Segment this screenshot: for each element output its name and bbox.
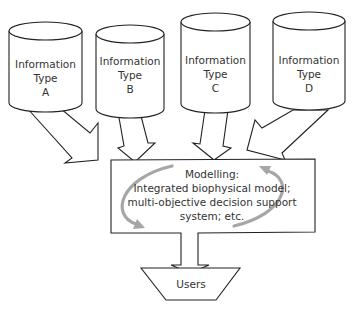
- source-b-line2: Type: [117, 69, 142, 81]
- source-d-line3: D: [305, 82, 313, 94]
- arrow-b-to-modelling: [118, 112, 155, 162]
- users-label: Users: [176, 278, 205, 290]
- arrow-d-to-modelling: [247, 110, 328, 160]
- source-b-line3: B: [126, 83, 133, 95]
- arrow-c-to-modelling: [193, 110, 231, 160]
- information-flow-diagram: Information Type A Information Type B In…: [0, 0, 353, 311]
- source-a-line3: A: [42, 86, 50, 98]
- arrow-a-to-modelling: [27, 108, 98, 163]
- source-c-line1: Information: [185, 54, 246, 66]
- modelling-line3: multi-objective decision support: [127, 196, 296, 208]
- source-b-line1: Information: [100, 55, 161, 67]
- database-cylinder-c: Information Type C: [181, 13, 250, 113]
- users-output: Users: [141, 268, 240, 300]
- modelling-process-box: Modelling: Integrated biophysical model;…: [111, 159, 315, 273]
- source-a-line1: Information: [15, 58, 76, 70]
- database-cylinder-d: Information Type D: [273, 12, 345, 110]
- modelling-line1: Modelling:: [185, 168, 239, 180]
- database-cylinder-a: Information Type A: [9, 22, 82, 112]
- source-c-line3: C: [212, 82, 219, 94]
- modelling-line2: Integrated biophysical model;: [134, 182, 291, 194]
- source-d-line2: Type: [296, 68, 321, 80]
- source-a-line2: Type: [32, 72, 57, 84]
- database-cylinder-b: Information Type B: [96, 25, 164, 118]
- modelling-line4: system; etc.: [180, 210, 245, 222]
- source-d-line1: Information: [279, 54, 340, 66]
- source-c-line2: Type: [202, 68, 227, 80]
